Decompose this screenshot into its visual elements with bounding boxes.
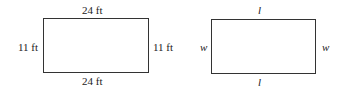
top-l-label: l: [258, 5, 261, 16]
left-w-label: w: [200, 42, 207, 53]
right-width-label: 11 ft: [153, 42, 173, 53]
top-length-label: 24 ft: [82, 5, 102, 16]
bottom-l-label: l: [258, 77, 261, 88]
rectangle-24-by-11: [43, 18, 149, 73]
rectangle-l-by-w: [211, 19, 316, 74]
left-width-label: 11 ft: [18, 42, 38, 53]
right-w-label: w: [322, 42, 329, 53]
bottom-length-label: 24 ft: [82, 76, 102, 87]
